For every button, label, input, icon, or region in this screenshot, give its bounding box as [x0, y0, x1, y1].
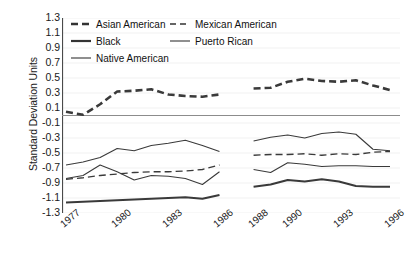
- y-tick-label: 0.1: [26, 102, 60, 113]
- legend-line-swatch: [70, 19, 92, 29]
- legend-label: Native American: [96, 53, 169, 64]
- legend-line-swatch: [70, 36, 92, 46]
- legend-label: Black: [96, 36, 120, 47]
- y-tick-label: 0.7: [26, 57, 60, 68]
- chart-container: Standard Deviation Units 1.31.10.90.70.5…: [0, 0, 405, 261]
- y-tick-label: -1.1: [26, 192, 60, 203]
- y-tick-label: 0.9: [26, 42, 60, 53]
- y-axis-tick-labels: 1.31.10.90.70.50.30.1-0.1-0.3-0.5-0.7-0.…: [20, 0, 60, 261]
- y-tick-label: -0.5: [26, 147, 60, 158]
- y-tick-label: -0.9: [26, 177, 60, 188]
- y-tick-label: 0.5: [26, 72, 60, 83]
- y-tick-label: -1.3: [26, 207, 60, 218]
- y-tick-label: 1.1: [26, 27, 60, 38]
- y-tick-label: -0.7: [26, 162, 60, 173]
- y-tick-label: 0.3: [26, 87, 60, 98]
- legend-item-black[interactable]: Black: [70, 35, 120, 47]
- y-tick-label: -0.1: [26, 117, 60, 128]
- legend-label: Puerto Rican: [195, 36, 253, 47]
- legend-line-swatch: [70, 53, 92, 63]
- legend-line-swatch: [169, 36, 191, 46]
- legend-item-mexican-american[interactable]: Mexican American: [169, 18, 277, 30]
- y-tick-label: -0.3: [26, 132, 60, 143]
- legend-item-puerto-rican[interactable]: Puerto Rican: [169, 35, 253, 47]
- plot-area: [62, 18, 400, 213]
- y-tick-label: 1.3: [26, 12, 60, 23]
- series-line-black: [66, 195, 219, 203]
- series-line-puerto-rican: [254, 132, 390, 151]
- legend-item-asian-american[interactable]: Asian American: [70, 18, 165, 30]
- legend-label: Asian American: [96, 19, 165, 30]
- legend-line-swatch: [169, 19, 191, 29]
- series-line-asian-american: [254, 79, 390, 90]
- legend-label: Mexican American: [195, 19, 277, 30]
- plot-svg: [62, 18, 400, 213]
- legend-item-native-american[interactable]: Native American: [70, 52, 169, 64]
